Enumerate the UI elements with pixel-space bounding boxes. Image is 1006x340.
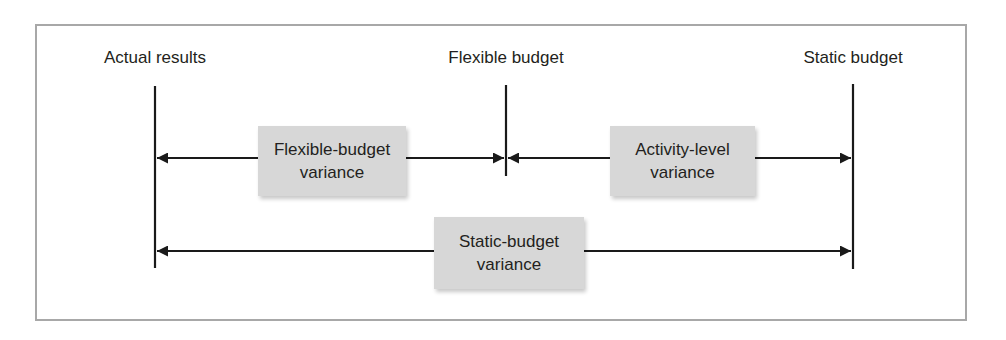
activity-level-variance-line1: Activity-level <box>635 138 729 161</box>
connector-lines <box>0 0 1006 340</box>
activity-level-variance-line2: variance <box>650 161 714 184</box>
static-budget-variance-box: Static-budget variance <box>434 217 584 289</box>
activity-level-variance-box: Activity-level variance <box>610 126 755 196</box>
static-budget-variance-line1: Static-budget <box>459 230 559 253</box>
static-budget-variance-line2: variance <box>477 253 541 276</box>
flexible-budget-variance-line2: variance <box>300 161 364 184</box>
flexible-budget-variance-box: Flexible-budget variance <box>258 126 406 196</box>
flexible-budget-variance-line1: Flexible-budget <box>274 138 390 161</box>
